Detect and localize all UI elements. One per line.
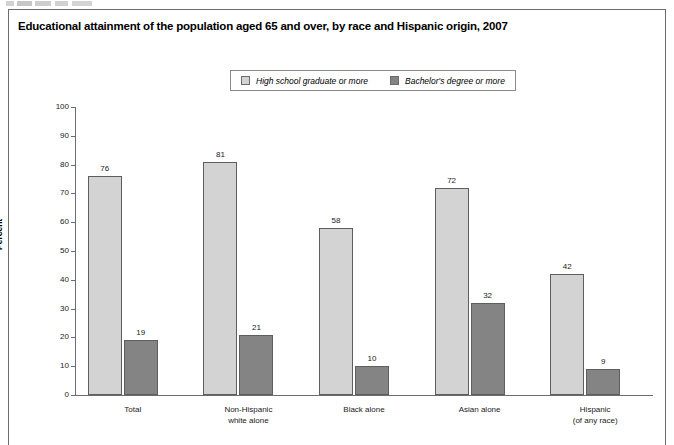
y-axis-tick [71, 309, 75, 310]
legend-swatch-bachelors [390, 76, 399, 85]
bar-1-2[interactable] [355, 366, 389, 395]
y-axis-tick-label: 100 [56, 102, 69, 111]
x-axis-line [75, 395, 653, 396]
bar-0-3[interactable] [435, 188, 469, 395]
bar-value-label: 72 [435, 176, 469, 185]
page-title: Educational attainment of the population… [18, 20, 508, 32]
y-axis-tick-label: 0 [65, 390, 69, 399]
y-axis-tick-label: 70 [60, 188, 69, 197]
bar-0-1[interactable] [203, 162, 237, 395]
bar-value-label: 32 [471, 291, 505, 300]
y-axis-tick-label: 90 [60, 131, 69, 140]
y-axis-tick [71, 395, 75, 396]
bar-value-label: 19 [124, 328, 158, 337]
bar-value-label: 9 [586, 357, 620, 366]
x-axis-category-label: Total [75, 404, 191, 415]
bar-value-label: 42 [550, 262, 584, 271]
y-axis-tick-label: 20 [60, 332, 69, 341]
y-axis-tick-labels: 0102030405060708090100 [45, 107, 69, 395]
y-axis-tick-label: 50 [60, 246, 69, 255]
y-axis-tick [71, 107, 75, 108]
y-axis-tick [71, 136, 75, 137]
bar-1-3[interactable] [471, 303, 505, 395]
legend-label-bachelors: Bachelor's degree or more [405, 76, 505, 86]
y-axis-tick-label: 30 [60, 304, 69, 313]
y-axis-tick [71, 222, 75, 223]
bar-value-label: 10 [355, 354, 389, 363]
plot-area: 7619812158107232429 [75, 107, 653, 395]
x-axis-category-label: Non-Hispanic white alone [191, 404, 307, 426]
legend-item-hs-grad[interactable]: High school graduate or more [241, 76, 368, 86]
x-axis-category-label: Black alone [306, 404, 422, 415]
x-axis-category-label: Hispanic (of any race) [537, 404, 653, 426]
x-axis-category-label: Asian alone [422, 404, 538, 415]
legend-swatch-hs-grad [241, 76, 250, 85]
y-axis-tick [71, 366, 75, 367]
chart-legend: High school graduate or more Bachelor's … [230, 70, 516, 91]
y-axis-tick-label: 60 [60, 217, 69, 226]
bar-1-0[interactable] [124, 340, 158, 395]
bar-value-label: 21 [239, 323, 273, 332]
bar-value-label: 58 [319, 216, 353, 225]
figure-label-artifact [6, 1, 92, 6]
y-axis-tick [71, 251, 75, 252]
bar-value-label: 76 [88, 164, 122, 173]
bar-value-label: 81 [203, 150, 237, 159]
y-axis-tick-label: 40 [60, 275, 69, 284]
legend-item-bachelors[interactable]: Bachelor's degree or more [390, 76, 505, 86]
bar-1-4[interactable] [586, 369, 620, 395]
bar-0-4[interactable] [550, 274, 584, 395]
bar-0-0[interactable] [88, 176, 122, 395]
bar-1-1[interactable] [239, 335, 273, 395]
bar-0-2[interactable] [319, 228, 353, 395]
y-axis-tick-label: 10 [60, 361, 69, 370]
y-axis-tick [71, 193, 75, 194]
y-axis-tick [71, 280, 75, 281]
y-axis-title: Percent [0, 219, 4, 250]
y-axis-tick-label: 80 [60, 160, 69, 169]
legend-label-hs-grad: High school graduate or more [256, 76, 368, 86]
y-axis-tick [71, 337, 75, 338]
y-axis-tick [71, 165, 75, 166]
